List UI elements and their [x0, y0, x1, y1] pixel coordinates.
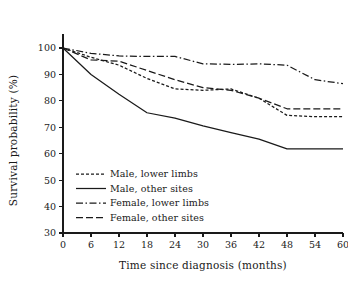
y-axis-title: Survival probability (%) [7, 75, 19, 206]
series-line [63, 48, 343, 149]
legend-item-label: Male, lower limbs [110, 168, 198, 179]
series-group [63, 48, 343, 149]
y-tick-label: 30 [44, 227, 56, 238]
y-tick-label: 60 [44, 148, 56, 159]
y-tick-label: 100 [38, 42, 56, 53]
chart-legend: Male, lower limbsMale, other sitesFemale… [76, 168, 209, 223]
series-line [63, 48, 343, 84]
y-tick-label: 50 [44, 175, 56, 186]
y-tick-label: 70 [44, 122, 56, 133]
legend-item-label: Male, other sites [110, 183, 193, 194]
x-tick-label: 42 [253, 239, 265, 250]
y-axis-ticks: 30405060708090100 [38, 42, 63, 238]
x-tick-label: 0 [60, 239, 66, 250]
x-tick-label: 36 [225, 239, 237, 250]
x-tick-label: 30 [197, 239, 209, 250]
x-tick-label: 6 [88, 239, 94, 250]
x-tick-label: 60 [337, 239, 348, 250]
y-tick-label: 40 [44, 201, 56, 212]
x-tick-label: 48 [281, 239, 293, 250]
x-tick-label: 24 [169, 239, 181, 250]
series-line [63, 48, 343, 117]
y-tick-label: 80 [44, 95, 56, 106]
x-tick-label: 18 [141, 239, 153, 250]
x-tick-label: 54 [309, 239, 321, 250]
survival-chart: 30405060708090100 06121824303642485460 M… [0, 0, 348, 289]
legend-item-label: Female, other sites [110, 212, 204, 223]
x-tick-label: 12 [113, 239, 125, 250]
legend-item-label: Female, lower limbs [110, 197, 209, 208]
x-axis-title: Time since diagnosis (months) [119, 259, 287, 271]
chart-svg: 30405060708090100 06121824303642485460 M… [0, 0, 348, 289]
x-axis-ticks: 06121824303642485460 [60, 233, 348, 250]
y-tick-label: 90 [44, 69, 56, 80]
series-line [63, 48, 343, 109]
